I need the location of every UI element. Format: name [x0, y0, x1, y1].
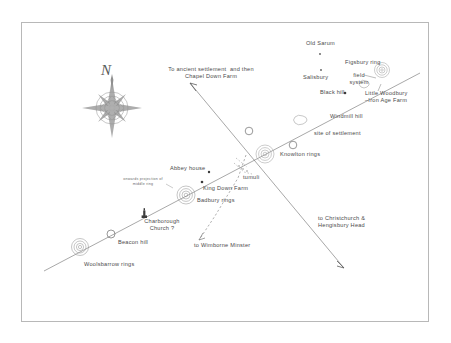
wimborne-branch-arrow	[199, 233, 205, 240]
label-knowlton-rings: Knowlton rings	[280, 151, 320, 158]
abbey-house-marker	[208, 171, 210, 173]
label-site-of-settlement: site of settlement	[314, 130, 361, 137]
site-of-settlement-symbol	[294, 115, 308, 125]
label-to-wimborne-minster: to Wimborne Minster	[194, 242, 250, 249]
knowlton-satellite-ring-b	[289, 141, 297, 149]
label-to-chapel-down-farm: To ancient settlement and then Chapel Do…	[152, 66, 270, 80]
label-woolsbarrow-rings: Woolsbarrow rings	[84, 261, 134, 268]
label-charborough-church: Charborough Church ?	[140, 218, 184, 232]
cross-ley-line	[190, 83, 344, 268]
label-beacon-hill: Beacon hill	[118, 239, 148, 246]
label-onwards-projection: onwards projection of middle ring	[112, 177, 174, 186]
ley-line-map-figure: N Old Sarum Figsbury ring Salisbury fiel…	[0, 0, 451, 343]
king-down-farm-marker	[201, 181, 204, 184]
compass-north-letter: N	[101, 62, 111, 79]
charborough-church-symbol	[142, 208, 147, 218]
label-old-sarum: Old Sarum	[306, 40, 335, 47]
woolsbarrow-rings-symbol	[72, 239, 89, 256]
salisbury-marker	[320, 69, 322, 71]
label-field-system: field system	[346, 72, 372, 86]
compass-rose-icon	[82, 74, 142, 138]
map-graphics-layer	[0, 0, 451, 343]
label-figsbury-ring: Figsbury ring	[345, 59, 381, 66]
label-black-hill: Black hill	[320, 89, 345, 96]
label-tumuli: tumuli	[243, 174, 259, 181]
knowlton-rings-symbol	[256, 145, 274, 163]
label-salisbury: Salisbury	[303, 74, 328, 81]
old-sarum-marker	[319, 53, 321, 55]
label-to-christchurch-hengisbury: to Christchurch & Hengisbury Head	[318, 215, 365, 229]
label-badbury-rings: Badbury rings	[197, 197, 235, 204]
knowlton-satellite-ring-a	[245, 127, 253, 135]
label-abbey-house: Abbey house	[170, 165, 205, 172]
badbury-rings-symbol	[177, 186, 195, 204]
cross-line-arrow-southeast	[337, 261, 344, 268]
label-windmill-hill: Windmill hill	[330, 113, 363, 120]
label-little-woodbury: Little Woodbury –Iron Age Farm	[365, 90, 408, 104]
label-king-down-farm: King Down Farm	[203, 185, 248, 192]
